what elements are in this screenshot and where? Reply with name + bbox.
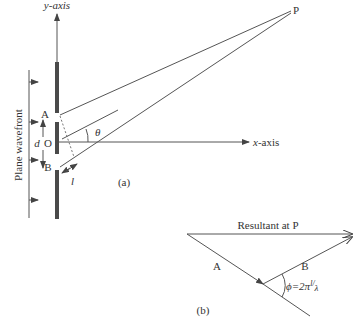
vector-b-label: B: [301, 260, 308, 272]
path-diff-arrow-2: [66, 164, 77, 171]
vector-a-label: A: [213, 260, 221, 272]
ray-middle: [62, 110, 118, 139]
separation-label: d: [34, 137, 40, 149]
theta-label: θ: [95, 126, 101, 138]
y-axis-label: y-axis: [43, 0, 70, 11]
perpendicular-dashed: [60, 116, 74, 157]
barrier-top: [55, 62, 59, 113]
slit-a-label: A: [41, 108, 49, 120]
phase-arc: [282, 274, 285, 297]
vector-a: [187, 234, 263, 284]
resultant-label: Resultant at P: [237, 219, 298, 231]
wavefront-label: Plane wavefront: [12, 109, 24, 181]
double-slit-diagram: y-axis Plane wavefront A O B d x-axis P …: [0, 0, 362, 331]
caption-a: (a): [118, 176, 131, 189]
phase-label: ϕ=2πl/λ: [286, 279, 319, 293]
path-diff-label: l: [71, 175, 74, 187]
point-p-label: P: [293, 4, 299, 16]
figure-a: y-axis Plane wavefront A O B d x-axis P …: [12, 0, 299, 219]
barrier-middle: [55, 122, 59, 154]
ray-a-to-p: [60, 11, 291, 115]
figure-b: Resultant at P A B ϕ=2πl/λ (b): [187, 219, 352, 317]
barrier-bottom: [55, 170, 59, 219]
theta-arc: [86, 129, 88, 142]
slit-b-label: B: [44, 161, 51, 173]
origin-label: O: [44, 137, 52, 149]
caption-b: (b): [197, 304, 210, 317]
x-axis-label: x-axis: [252, 136, 279, 148]
